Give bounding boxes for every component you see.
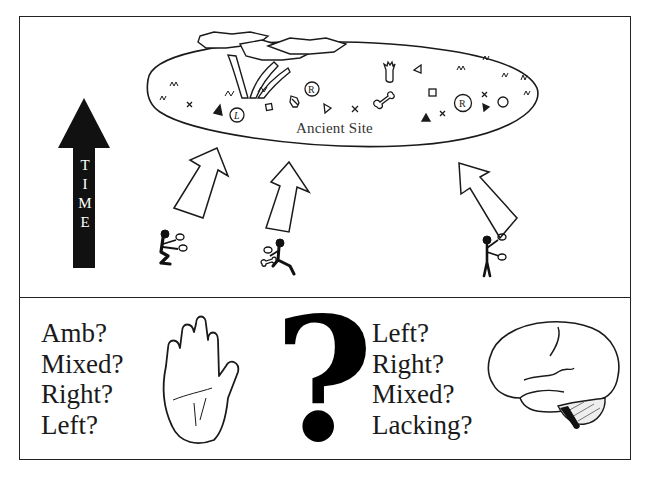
brain-option: Mixed? (372, 379, 472, 410)
hand-option: Left? (41, 410, 123, 441)
arrow-up-icon (266, 162, 309, 232)
hand-option: Amb? (41, 318, 123, 349)
time-letter: T (76, 156, 94, 175)
time-letter: M (76, 194, 94, 213)
arrow-up-right-icon (174, 148, 228, 218)
figure-standing-icon (483, 234, 506, 276)
svg-text:R: R (308, 84, 315, 95)
figure-crouching-icon (161, 230, 187, 264)
hand-icon (164, 317, 239, 444)
time-label: T I M E (76, 156, 94, 232)
brain-icon (488, 322, 618, 429)
brain-options-list: Left? Right? Mixed? Lacking? (372, 318, 472, 440)
time-letter: I (76, 175, 94, 194)
brain-option: Lacking? (372, 410, 472, 441)
question-mark-icon: ? (274, 300, 374, 460)
brain-option: Right? (372, 349, 472, 380)
time-letter: E (76, 213, 94, 232)
hand-option: Mixed? (41, 349, 123, 380)
hollow-arrows (174, 148, 517, 238)
hand-options-list: Amb? Mixed? Right? Left? (41, 318, 123, 440)
figure-kneeling-icon (261, 239, 294, 274)
arrow-up-left-icon (459, 163, 517, 238)
svg-text:R: R (459, 98, 466, 109)
ancient-site-label: Ancient Site (296, 120, 373, 137)
brain-option: Left? (372, 318, 472, 349)
svg-text:L: L (233, 110, 240, 121)
hand-option: Right? (41, 379, 123, 410)
